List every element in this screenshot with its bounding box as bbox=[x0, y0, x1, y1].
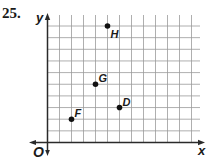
y-axis-arrow-down-icon bbox=[45, 150, 50, 156]
grid bbox=[48, 15, 201, 143]
y-axis-label: y bbox=[35, 10, 44, 25]
x-axis-label: x bbox=[197, 143, 206, 158]
point-f: F bbox=[69, 107, 82, 122]
point-dot bbox=[105, 23, 111, 29]
point-label: H bbox=[111, 28, 120, 40]
y-axis-arrow-up-icon bbox=[45, 13, 50, 20]
coordinate-plane: y x O FGDH bbox=[0, 0, 219, 162]
point-dot bbox=[69, 116, 75, 122]
point-label: D bbox=[123, 96, 131, 108]
point-label: G bbox=[99, 72, 108, 84]
point-g: G bbox=[93, 72, 108, 87]
origin-label: O bbox=[33, 144, 44, 160]
point-dot bbox=[93, 81, 99, 87]
point-label: F bbox=[75, 107, 82, 119]
point-d: D bbox=[117, 96, 131, 111]
point-dot bbox=[117, 105, 123, 111]
